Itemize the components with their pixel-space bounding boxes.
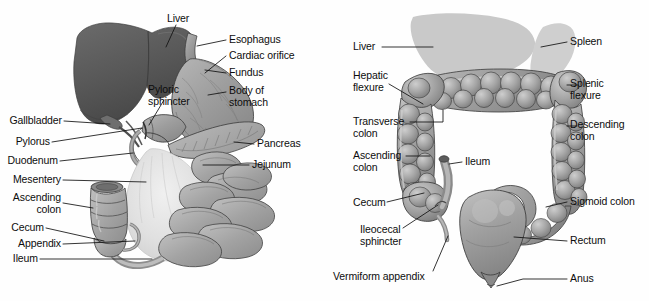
- label-rectum: Rectum: [570, 235, 606, 247]
- label-pylorus: Pylorus: [0, 136, 50, 148]
- label-ileum: Ileum: [465, 156, 490, 168]
- label-gallbladder: Gallbladder: [0, 115, 62, 127]
- label-pancreas: Pancreas: [257, 138, 301, 150]
- large-intestine-panel: Liver Hepatic flexure Transverse colon A…: [325, 0, 649, 301]
- label-ileocecal-sphincter: Ileocecal sphincter: [360, 224, 402, 247]
- label-cecum: Cecum: [0, 222, 44, 234]
- label-cardiac-orifice: Cardiac orifice: [229, 50, 295, 62]
- upper-gi-tract-panel: Liver Pyloric sphincter Gallbladder Pylo…: [0, 0, 325, 301]
- label-mesentery: Mesentery: [0, 174, 61, 186]
- label-cecum: Cecum: [353, 197, 386, 209]
- vermiform-appendix-organ: [438, 216, 447, 240]
- label-jejunum: Jejunum: [252, 159, 291, 171]
- label-body-of-stomach: Body of stomach: [229, 85, 268, 108]
- label-transverse-colon: Transverse colon: [353, 116, 404, 139]
- label-duodenum: Duodenum: [0, 155, 58, 167]
- label-fundus: Fundus: [229, 67, 263, 79]
- label-ascending-colon: Ascending colon: [0, 192, 61, 215]
- rectum-organ: [460, 190, 526, 280]
- label-ileum: Ileum: [0, 253, 38, 265]
- label-liver: Liver: [167, 13, 189, 25]
- label-descending-colon: Descending colon: [570, 119, 624, 142]
- label-vermiform-appendix: Vermiform appendix: [333, 271, 425, 283]
- label-ascending-colon: Ascending colon: [353, 150, 401, 173]
- label-hepatic-flexure: Hepatic flexure: [353, 70, 388, 93]
- label-appendix: Appendix: [0, 238, 61, 250]
- label-pyloric-sphincter: Pyloric sphincter: [148, 84, 190, 107]
- label-liver: Liver: [353, 41, 375, 53]
- label-spleen: Spleen: [570, 36, 602, 48]
- label-anus: Anus: [570, 273, 594, 285]
- label-esophagus: Esophagus: [229, 34, 281, 46]
- label-splenic-flexure: Splenic flexure: [570, 78, 604, 101]
- digestive-system-figure: Liver Pyloric sphincter Gallbladder Pylo…: [0, 0, 649, 301]
- label-sigmoid-colon: Sigmoid colon: [570, 196, 635, 208]
